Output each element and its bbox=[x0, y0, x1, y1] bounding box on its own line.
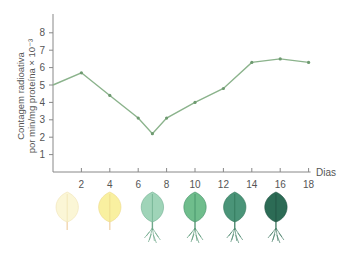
x-tick-label: 16 bbox=[275, 179, 287, 190]
y-tick-label: 2 bbox=[39, 132, 45, 143]
x-tick-label: 18 bbox=[303, 179, 315, 190]
y-tick-label: 1 bbox=[39, 149, 45, 160]
x-tick-label: 12 bbox=[218, 179, 230, 190]
x-tick-label: 14 bbox=[246, 179, 258, 190]
leaf-icon bbox=[141, 192, 163, 243]
data-series bbox=[53, 57, 310, 135]
data-point bbox=[222, 87, 225, 90]
leaf-icon bbox=[99, 192, 121, 230]
y-tick-label: 5 bbox=[39, 80, 45, 91]
x-tick-label: 4 bbox=[107, 179, 113, 190]
data-point bbox=[307, 61, 310, 64]
y-ticks: 12345678 bbox=[39, 27, 53, 160]
x-ticks: 24681012141618 bbox=[79, 168, 315, 190]
leaf-icon bbox=[56, 192, 78, 230]
axes bbox=[53, 14, 311, 172]
leaf-icon bbox=[224, 192, 246, 243]
data-point bbox=[151, 132, 154, 135]
data-point bbox=[108, 94, 111, 97]
y-tick-label: 3 bbox=[39, 114, 45, 125]
leaf-illustrations bbox=[56, 192, 287, 243]
y-tick-label: 6 bbox=[39, 62, 45, 73]
x-tick-label: 2 bbox=[79, 179, 85, 190]
y-tick-label: 7 bbox=[39, 45, 45, 56]
data-point bbox=[137, 116, 140, 119]
x-tick-label: 8 bbox=[164, 179, 170, 190]
line-chart: 12345678 24681012141618 Dias bbox=[0, 0, 350, 254]
y-tick-label: 4 bbox=[39, 97, 45, 108]
x-tick-label: 10 bbox=[189, 179, 201, 190]
data-point bbox=[193, 101, 196, 104]
data-point bbox=[80, 71, 83, 74]
series-line bbox=[53, 59, 309, 134]
x-tick-label: 6 bbox=[135, 179, 141, 190]
leaf-icon bbox=[265, 192, 287, 243]
data-point bbox=[279, 57, 282, 60]
leaf-icon bbox=[184, 192, 206, 243]
data-point bbox=[250, 61, 253, 64]
data-point bbox=[165, 116, 168, 119]
y-tick-label: 8 bbox=[39, 27, 45, 38]
x-axis-label: Dias bbox=[316, 167, 336, 178]
